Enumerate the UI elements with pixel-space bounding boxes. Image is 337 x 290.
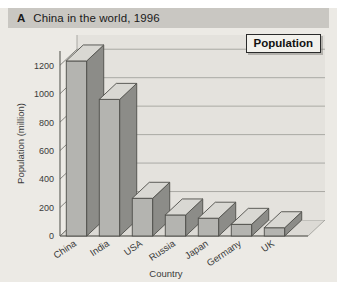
figure-letter: A xyxy=(17,12,25,24)
legend-label: Population xyxy=(254,37,313,49)
x-category-label: Germany xyxy=(204,237,243,268)
figure-card: A China in the world, 1996 0200400600800… xyxy=(0,8,337,282)
bar-chart-svg: 020040060080010001200ChinaIndiaUSARussia… xyxy=(8,28,329,282)
bar-front-face xyxy=(231,224,251,236)
bar-front-face xyxy=(264,228,284,236)
y-tick-label: 1200 xyxy=(34,61,54,71)
y-tick-label: 200 xyxy=(39,203,54,213)
bar-front-face xyxy=(132,198,152,236)
y-tick-label: 0 xyxy=(49,231,54,241)
x-category-label: USA xyxy=(122,237,145,257)
chart-legend: Population xyxy=(246,34,321,53)
bar-india xyxy=(99,83,136,236)
x-category-label: China xyxy=(51,237,78,260)
figure-title-bar: A China in the world, 1996 xyxy=(8,8,329,28)
y-tick-label: 800 xyxy=(39,118,54,128)
x-category-label: Russia xyxy=(147,237,178,263)
x-category-label: UK xyxy=(259,237,277,254)
x-axis-title: Country xyxy=(149,268,183,279)
y-tick-label: 400 xyxy=(39,174,54,184)
bar-front-face xyxy=(66,61,86,236)
y-tick-label: 600 xyxy=(39,146,54,156)
page-title: China in the world, 1996 xyxy=(33,12,159,24)
bar-china xyxy=(66,45,103,236)
y-tick-label: 1000 xyxy=(34,89,54,99)
bar-front-face xyxy=(99,99,119,236)
y-axis-title: Population (million) xyxy=(15,103,26,184)
bar-front-face xyxy=(165,215,185,236)
bar-front-face xyxy=(198,218,218,236)
x-category-label: India xyxy=(88,237,112,258)
chart-plot-area: 020040060080010001200ChinaIndiaUSARussia… xyxy=(8,28,329,282)
